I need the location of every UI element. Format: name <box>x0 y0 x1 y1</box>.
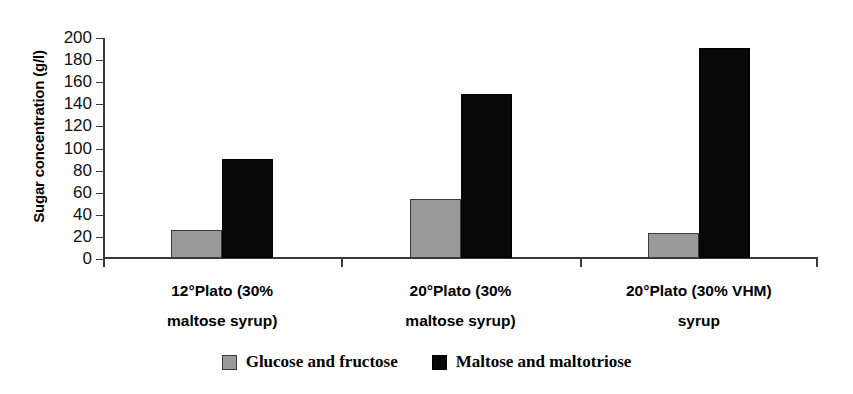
bar-0-0 <box>171 230 222 258</box>
y-axis-tick: 100 <box>96 149 103 150</box>
y-axis-tick-label: 80 <box>32 161 92 180</box>
y-axis-tick: 200 <box>96 38 103 39</box>
y-axis-tick: 0 <box>96 259 103 260</box>
bar-1-0 <box>410 199 461 258</box>
x-axis-tick <box>580 259 582 267</box>
x-axis-category-labels: 12°Plato (30%maltose syrup)20°Plato (30%… <box>103 276 818 342</box>
x-axis-tick <box>103 259 105 267</box>
legend-item-0[interactable]: Glucose and fructose <box>222 352 398 372</box>
x-axis-category-label-2: 20°Plato (30% VHM)syrup <box>580 276 818 336</box>
x-axis-category-label-1: 20°Plato (30%maltose syrup) <box>341 276 579 336</box>
y-axis-tick-label: 140 <box>32 94 92 113</box>
y-axis-tick-label: 40 <box>32 205 92 224</box>
y-axis-tick: 40 <box>96 215 103 216</box>
y-axis-tick-label: 100 <box>32 139 92 158</box>
bar-1-1 <box>461 94 512 258</box>
y-axis-tick-label: 160 <box>32 72 92 91</box>
y-axis-tick-label: 60 <box>32 183 92 202</box>
category-label-line: maltose syrup) <box>103 306 341 336</box>
gray-swatch-icon <box>222 355 237 370</box>
plot-area: 200180160140120100806040200 <box>103 38 818 259</box>
y-axis-tick-label: 200 <box>32 28 92 47</box>
legend-label: Maltose and maltotriose <box>456 352 632 372</box>
bar-0-1 <box>222 159 273 258</box>
y-axis-tick: 60 <box>96 193 103 194</box>
y-axis-tick: 20 <box>96 237 103 238</box>
category-label-line: 12°Plato (30% <box>103 276 341 306</box>
category-label-line: syrup <box>580 306 818 336</box>
category-label-line: 20°Plato (30% VHM) <box>580 276 818 306</box>
legend-item-1[interactable]: Maltose and maltotriose <box>432 352 632 372</box>
legend-label: Glucose and fructose <box>246 352 398 372</box>
y-axis-tick-label: 0 <box>32 249 92 268</box>
y-axis-tick-label: 20 <box>32 227 92 246</box>
category-label-line: 20°Plato (30% <box>341 276 579 306</box>
y-axis-tick-label: 120 <box>32 116 92 135</box>
black-swatch-icon <box>432 355 447 370</box>
y-axis-tick: 80 <box>96 171 103 172</box>
y-axis-line <box>103 38 105 259</box>
y-axis-tick: 140 <box>96 104 103 105</box>
bar-chart-figure: Sugar concentration (g/l) 20018016014012… <box>0 0 853 394</box>
y-axis-tick: 120 <box>96 126 103 127</box>
y-axis-tick-label: 180 <box>32 50 92 69</box>
x-axis-tick <box>341 259 343 267</box>
x-axis-category-label-0: 12°Plato (30%maltose syrup) <box>103 276 341 336</box>
chart-legend: Glucose and fructoseMaltose and maltotri… <box>0 352 853 372</box>
x-axis-tick <box>816 259 818 267</box>
category-label-line: maltose syrup) <box>341 306 579 336</box>
y-axis-tick: 180 <box>96 60 103 61</box>
y-axis-tick: 160 <box>96 82 103 83</box>
bar-2-0 <box>648 233 699 258</box>
bar-2-1 <box>699 48 750 258</box>
